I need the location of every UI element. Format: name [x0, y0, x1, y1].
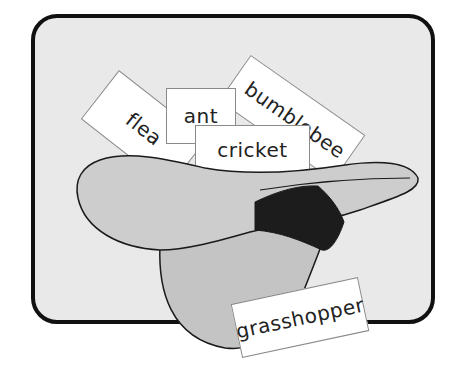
hat-icon: [0, 0, 460, 374]
word-card-label: grasshopper: [234, 292, 366, 343]
illustration: flea bumblebee ant cricket grasshopper: [0, 0, 460, 374]
